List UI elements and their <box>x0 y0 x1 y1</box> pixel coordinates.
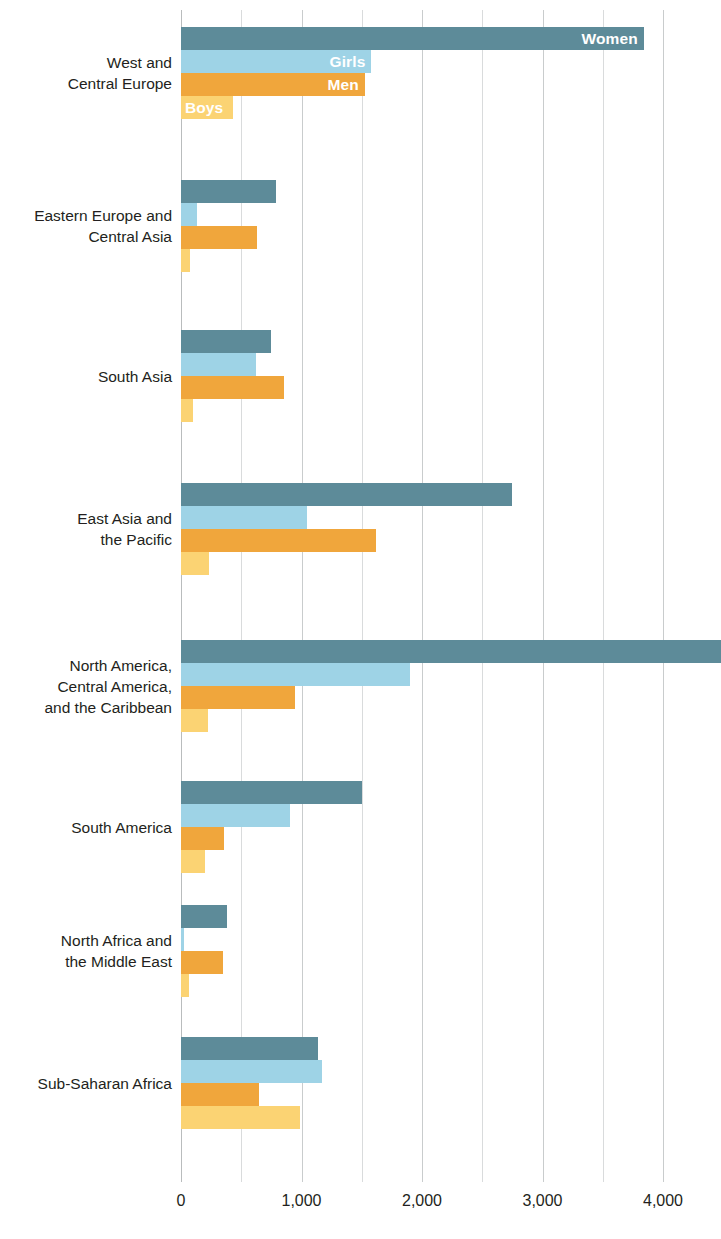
bar-group <box>181 781 721 873</box>
category-label: South America <box>0 817 172 838</box>
bar-fill <box>181 640 721 663</box>
category-label: South Asia <box>0 366 172 387</box>
bar-group <box>181 640 721 732</box>
bar-chart: West and Central EuropeEastern Europe an… <box>0 0 721 1239</box>
bar-men <box>181 686 295 709</box>
bar-group <box>181 483 721 575</box>
bar-men <box>181 951 223 974</box>
bar-fill <box>181 905 227 928</box>
bar-men <box>181 376 284 399</box>
bar-group: WomenGirlsMenBoys <box>181 27 721 119</box>
x-tick-label: 0 <box>177 1192 186 1210</box>
category-label: North Africa and the Middle East <box>0 930 172 972</box>
bar-boys <box>181 249 190 272</box>
category-label: West and Central Europe <box>0 52 172 94</box>
bar-fill <box>181 506 307 529</box>
bar-men: Men <box>181 73 365 96</box>
bar-girls: Girls <box>181 50 371 73</box>
bar-girls <box>181 506 307 529</box>
series-label-girls: Girls <box>330 54 366 70</box>
bar-fill <box>181 686 295 709</box>
bar-boys <box>181 1106 300 1129</box>
bar-fill <box>181 1060 322 1083</box>
category-axis-labels: West and Central EuropeEastern Europe an… <box>0 0 172 1239</box>
bar-fill <box>181 552 209 575</box>
bar-fill <box>181 663 410 686</box>
bar-men <box>181 226 257 249</box>
bar-fill <box>181 709 208 732</box>
bar-women <box>181 483 512 506</box>
bar-group <box>181 330 721 422</box>
bar-fill <box>181 180 276 203</box>
bar-fill <box>181 203 197 226</box>
category-label: Sub-Saharan Africa <box>0 1073 172 1094</box>
bar-fill <box>181 781 362 804</box>
series-label-men: Men <box>327 77 358 93</box>
bar-fill <box>181 850 205 873</box>
bar-fill <box>181 353 256 376</box>
bar-boys <box>181 974 189 997</box>
category-label: East Asia and the Pacific <box>0 508 172 550</box>
bar-fill <box>181 483 512 506</box>
bar-fill <box>181 399 193 422</box>
bar-fill <box>181 827 224 850</box>
series-label-boys: Boys <box>185 100 223 116</box>
bar-fill <box>181 804 290 827</box>
value-axis-labels: 01,0002,0003,0004,000 <box>0 1192 721 1222</box>
bar-fill <box>181 1037 318 1060</box>
bar-women <box>181 640 721 663</box>
bar-women <box>181 180 276 203</box>
bar-fill <box>181 330 271 353</box>
bar-girls <box>181 353 256 376</box>
x-tick-label: 3,000 <box>522 1192 562 1210</box>
bar-fill <box>181 376 284 399</box>
bar-men <box>181 827 224 850</box>
bar-group <box>181 905 721 997</box>
bar-girls <box>181 203 197 226</box>
bar-group <box>181 180 721 272</box>
bar-men <box>181 1083 259 1106</box>
bar-boys: Boys <box>181 96 233 119</box>
plot-area: WomenGirlsMenBoys <box>181 10 721 1182</box>
bar-women <box>181 905 227 928</box>
bar-girls <box>181 1060 322 1083</box>
bar-fill <box>181 951 223 974</box>
bar-fill <box>181 249 190 272</box>
bar-women <box>181 1037 318 1060</box>
bar-girls <box>181 928 184 951</box>
x-tick-label: 4,000 <box>643 1192 683 1210</box>
bar-boys <box>181 850 205 873</box>
bar-boys <box>181 709 208 732</box>
bar-women <box>181 330 271 353</box>
bar-fill <box>181 1083 259 1106</box>
bar-fill <box>181 1106 300 1129</box>
category-label: North America, Central America, and the … <box>0 655 172 718</box>
bar-group <box>181 1037 721 1129</box>
bar-women: Women <box>181 27 644 50</box>
bar-girls <box>181 663 410 686</box>
bar-fill <box>181 529 376 552</box>
x-tick-label: 1,000 <box>281 1192 321 1210</box>
bar-girls <box>181 804 290 827</box>
bar-boys <box>181 552 209 575</box>
bar-fill <box>181 928 184 951</box>
bar-boys <box>181 399 193 422</box>
category-label: Eastern Europe and Central Asia <box>0 205 172 247</box>
bar-women <box>181 781 362 804</box>
bar-fill <box>181 226 257 249</box>
series-label-women: Women <box>582 31 638 47</box>
x-tick-label: 2,000 <box>402 1192 442 1210</box>
bar-men <box>181 529 376 552</box>
bar-fill <box>181 974 189 997</box>
bar-fill <box>181 27 644 50</box>
